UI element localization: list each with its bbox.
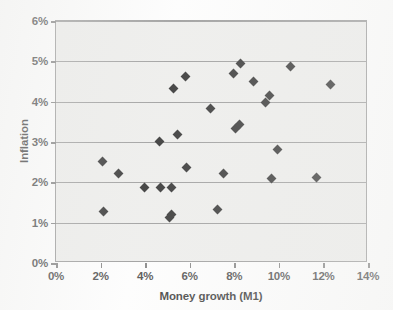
y-axis-tick [51, 61, 56, 63]
x-axis-title: Money growth (M1) [55, 290, 367, 302]
x-axis-tick [323, 263, 325, 268]
gridline-horizontal [56, 142, 366, 143]
data-point-marker [273, 144, 283, 154]
y-axis-tick-label: 5% [32, 55, 48, 67]
x-axis-tick [145, 263, 147, 268]
y-axis-tick [51, 142, 56, 144]
x-axis-tick-label: 8% [226, 270, 242, 282]
x-axis-tick-label: 4% [137, 270, 153, 282]
y-axis-tick-label: 1% [32, 217, 48, 229]
x-axis-tick-label: 10% [268, 270, 290, 282]
y-axis-tick-label: 0% [32, 257, 48, 269]
plot-area: 0%1%2%3%4%5%6% 0%2%4%6%8%10%12%14% [55, 20, 367, 262]
data-point-marker [168, 84, 178, 94]
data-point-marker [312, 173, 322, 183]
gridline-horizontal [56, 102, 366, 103]
x-axis-tick [368, 263, 370, 268]
x-axis-tick [234, 263, 236, 268]
data-point-marker [236, 58, 246, 68]
scatter-chart-figure: 0%1%2%3%4%5%6% 0%2%4%6%8%10%12%14% Infla… [0, 0, 393, 310]
y-axis-title: Inflation [18, 119, 30, 163]
y-axis-tick [51, 21, 56, 23]
x-axis-tick-label: 0% [48, 270, 64, 282]
gridline-horizontal [56, 182, 366, 183]
data-point-marker [325, 80, 335, 90]
data-point-marker [218, 168, 228, 178]
data-point-marker [139, 183, 149, 193]
y-axis-tick [51, 223, 56, 225]
y-axis-tick-label: 4% [32, 96, 48, 108]
x-axis-tick-label: 14% [357, 270, 379, 282]
x-axis-tick-label: 2% [92, 270, 108, 282]
data-point-marker [156, 182, 166, 192]
data-point-marker [167, 182, 177, 192]
x-axis-tick [279, 263, 281, 268]
x-axis-tick [101, 263, 103, 268]
y-axis-tick [51, 102, 56, 104]
data-point-marker [155, 136, 165, 146]
y-axis-tick-label: 6% [32, 15, 48, 27]
data-point-marker [213, 204, 223, 214]
data-point-marker [173, 130, 183, 140]
gridline-horizontal [56, 61, 366, 62]
data-point-marker [181, 163, 191, 173]
data-point-marker [206, 103, 216, 113]
gridline-horizontal [56, 21, 366, 22]
x-axis-tick-label: 6% [182, 270, 198, 282]
x-axis-tick [190, 263, 192, 268]
x-axis-tick-label: 12% [312, 270, 334, 282]
x-axis-tick [56, 263, 58, 268]
data-point-marker [98, 156, 108, 166]
data-point-marker [180, 72, 190, 82]
data-point-marker [228, 68, 238, 78]
data-point-marker [99, 207, 109, 217]
y-axis-tick-label: 3% [32, 136, 48, 148]
gridline-horizontal [56, 223, 366, 224]
data-point-marker [113, 169, 123, 179]
y-axis-tick-label: 2% [32, 176, 48, 188]
data-point-marker [285, 61, 295, 71]
y-axis-tick [51, 182, 56, 184]
data-point-marker [248, 77, 258, 87]
